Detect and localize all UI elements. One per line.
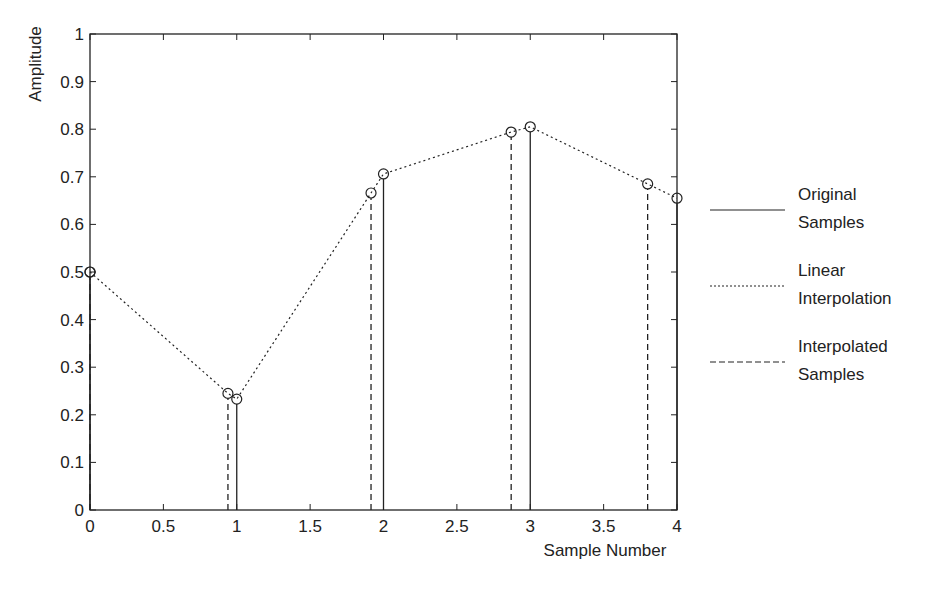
legend-label: Linear [798, 261, 846, 280]
y-tick-label: 0.6 [60, 215, 84, 234]
legend: OriginalSamplesLinearInterpolationInterp… [710, 185, 892, 384]
legend-label: Samples [798, 213, 864, 232]
y-tick-label: 0.1 [60, 453, 84, 472]
x-tick-label: 2.5 [445, 517, 469, 536]
sample-marker [525, 122, 535, 132]
legend-label: Samples [798, 365, 864, 384]
sample-interpolation-chart: 00.511.522.533.54 00.10.20.30.40.50.60.7… [0, 0, 929, 594]
x-tick-label: 0.5 [152, 517, 176, 536]
x-tick-label: 3 [526, 517, 535, 536]
sample-marker [232, 394, 242, 404]
sample-marker [379, 169, 389, 179]
x-tick-label: 3.5 [592, 517, 616, 536]
x-axis-title: Sample Number [544, 541, 667, 560]
y-tick-label: 0.7 [60, 168, 84, 187]
y-tick-label: 0.5 [60, 263, 84, 282]
series-layer [85, 122, 682, 510]
y-axis-ticks: 00.10.20.30.40.50.60.70.80.91 [60, 25, 677, 520]
series-interpolated-samples [85, 127, 653, 510]
y-tick-label: 1 [75, 25, 84, 44]
x-tick-label: 1 [232, 517, 241, 536]
legend-label: Interpolated [798, 337, 888, 356]
y-tick-label: 0.9 [60, 73, 84, 92]
x-tick-label: 2 [379, 517, 388, 536]
legend-label: Original [798, 185, 857, 204]
y-axis-title: Amplitude [26, 26, 45, 102]
y-tick-label: 0.4 [60, 311, 84, 330]
y-tick-label: 0.3 [60, 358, 84, 377]
x-tick-label: 0 [85, 517, 94, 536]
x-tick-label: 4 [672, 517, 681, 536]
y-tick-label: 0.2 [60, 406, 84, 425]
x-tick-label: 1.5 [298, 517, 322, 536]
legend-label: Interpolation [798, 289, 892, 308]
series-original-samples [85, 122, 682, 510]
sample-marker [223, 388, 233, 398]
sample-marker [643, 179, 653, 189]
sample-marker [506, 127, 516, 137]
y-tick-label: 0 [75, 501, 84, 520]
y-tick-label: 0.8 [60, 120, 84, 139]
